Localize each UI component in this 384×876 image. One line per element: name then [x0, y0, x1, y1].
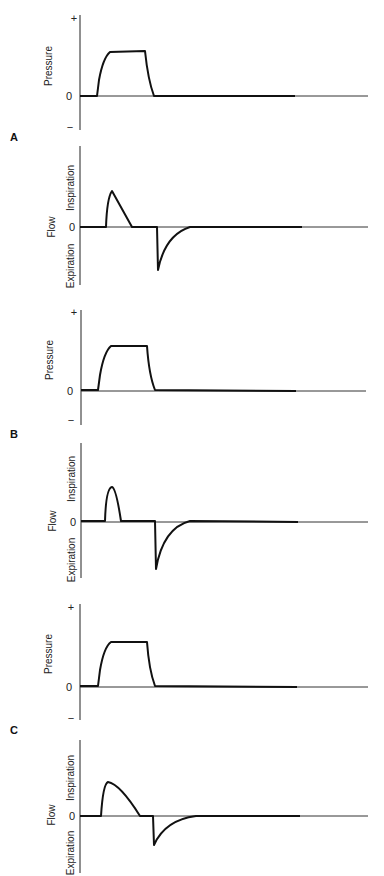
- inspiration-label: Inspiration: [65, 755, 76, 801]
- flow-label: Flow: [46, 804, 57, 826]
- pressure-trace: [81, 346, 296, 391]
- minus-tick: −: [67, 121, 73, 133]
- pressure-label: Pressure: [43, 46, 54, 86]
- waveform-figure: + 0 − Pressure A 0 Inspiration Expiratio…: [0, 0, 384, 876]
- panel-label-c: C: [10, 724, 18, 736]
- panel-b-flow: 0 Inspiration Expiration Flow: [47, 443, 368, 582]
- plus-tick: +: [71, 12, 77, 24]
- minus-tick: −: [68, 712, 74, 724]
- flow-label: Flow: [47, 510, 58, 532]
- expiration-label: Expiration: [65, 831, 76, 875]
- pressure-label: Pressure: [43, 634, 54, 674]
- plus-tick: +: [71, 306, 77, 318]
- flow-label: Flow: [46, 216, 57, 238]
- panel-b-pressure: + 0 − Pressure: [44, 306, 366, 426]
- zero-tick: 0: [67, 385, 73, 397]
- minus-tick: −: [68, 414, 74, 426]
- zero-tick: 0: [66, 681, 72, 693]
- panel-c-pressure: + 0 − Pressure: [43, 601, 368, 724]
- zero-tick: 0: [69, 810, 75, 822]
- flow-trace: [80, 782, 300, 845]
- pressure-trace: [80, 51, 295, 96]
- flow-trace: [80, 191, 302, 270]
- flow-trace: [81, 487, 298, 569]
- panel-label-b: B: [10, 428, 18, 440]
- panel-label-a: A: [10, 131, 18, 143]
- zero-tick: 0: [69, 221, 75, 233]
- expiration-label: Expiration: [66, 538, 77, 582]
- expiration-label: Expiration: [65, 244, 76, 288]
- panel-a-flow: 0 Inspiration Expiration Flow: [46, 146, 368, 288]
- zero-tick: 0: [66, 90, 72, 102]
- zero-tick: 0: [70, 516, 76, 528]
- pressure-label: Pressure: [44, 340, 55, 380]
- inspiration-label: Inspiration: [65, 165, 76, 211]
- inspiration-label: Inspiration: [66, 456, 77, 502]
- panel-c-flow: 0 Inspiration Expiration Flow: [46, 740, 368, 875]
- pressure-trace: [80, 642, 297, 687]
- panel-a-pressure: + 0 − Pressure: [43, 12, 368, 133]
- plus-tick: +: [68, 601, 74, 613]
